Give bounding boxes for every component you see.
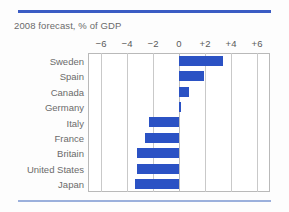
bar	[179, 87, 189, 97]
bar	[179, 71, 204, 81]
bottom-rule-divider	[18, 200, 271, 202]
bar	[137, 164, 179, 174]
bar	[179, 56, 223, 66]
bar-row	[88, 130, 270, 145]
category-label: Japan	[58, 179, 84, 190]
plot-area	[88, 53, 270, 192]
x-tick-label: 0	[176, 38, 181, 49]
bar-row	[88, 146, 270, 161]
bar-row	[88, 161, 270, 176]
bar-row	[88, 84, 270, 99]
bar	[179, 102, 181, 112]
bar	[149, 117, 179, 127]
chart-title: 2008 forecast, % of GDP	[14, 20, 121, 31]
x-tick-label: +4	[226, 38, 237, 49]
category-label: France	[54, 132, 84, 143]
bar	[135, 179, 179, 189]
category-axis-labels: SwedenSpainCanadaGermanyItalyFranceBrita…	[10, 53, 84, 192]
x-axis-tick-labels: −6−4−20+2+4+6	[88, 38, 270, 51]
x-tick-label: −4	[122, 38, 133, 49]
x-tick-label: −2	[148, 38, 159, 49]
x-tick-label: −6	[96, 38, 107, 49]
category-label: Sweden	[50, 55, 84, 66]
bar-row	[88, 115, 270, 130]
category-label: United States	[27, 163, 84, 174]
bar-row	[88, 53, 270, 68]
bar-series	[88, 53, 270, 192]
category-label: Germany	[45, 102, 84, 113]
category-label: Spain	[60, 71, 84, 82]
category-label: Canada	[51, 86, 84, 97]
chart-figure: 2008 forecast, % of GDP −6−4−20+2+4+6 Sw…	[0, 0, 289, 212]
x-tick-label: +2	[200, 38, 211, 49]
bar	[137, 148, 179, 158]
category-label: Italy	[67, 117, 84, 128]
bar-row	[88, 68, 270, 83]
category-label: Britain	[57, 148, 84, 159]
bar-row	[88, 99, 270, 114]
x-tick-label: +6	[252, 38, 263, 49]
top-rule-divider	[18, 10, 271, 13]
bar-row	[88, 177, 270, 192]
bar	[145, 133, 179, 143]
